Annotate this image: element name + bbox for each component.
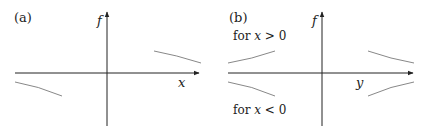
x-axis-label: x [178, 75, 186, 90]
curve-lower-right [368, 82, 414, 96]
curve-upper-left [228, 51, 275, 63]
panel-b: (b) f y for x > 0 for x < 0 [228, 10, 414, 126]
f-axis-label: f [311, 13, 319, 28]
panel-a: (a) f x [14, 10, 201, 126]
curve-lower-left [228, 82, 275, 96]
y-axis-label: y [355, 75, 364, 90]
diagram-canvas: (a) f x (b) f y for x > 0 for x < 0 [0, 0, 427, 132]
curve-upper-right [368, 51, 414, 63]
curve-quadrant-3 [15, 82, 62, 96]
panel-a-label: (a) [14, 10, 32, 25]
annotation-x-negative: for x < 0 [233, 103, 286, 117]
annotation-x-positive: for x > 0 [233, 29, 286, 43]
curve-quadrant-1 [154, 51, 201, 63]
f-axis-label: f [96, 13, 104, 28]
panel-b-label: (b) [229, 10, 247, 25]
